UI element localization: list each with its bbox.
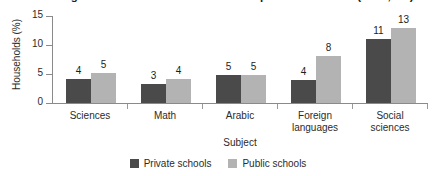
legend-swatch-icon <box>130 159 139 168</box>
x-axis-title: Subject <box>52 137 428 148</box>
x-category-label-line1: Foreign <box>278 110 352 122</box>
x-category-label-arabic: Arabic <box>203 110 277 122</box>
bar-public-foreign-languages[interactable]: 8 <box>316 56 341 103</box>
legend-label-private-schools: Private schools <box>144 158 212 169</box>
bar-private-social-sciences[interactable]: 11 <box>366 39 391 103</box>
y-tick-label-10: 10 <box>32 38 43 49</box>
bar-value-private-math: 3 <box>151 70 157 81</box>
x-axis-separator <box>352 104 353 109</box>
x-category-label-foreign-languages: Foreign languages <box>278 110 352 133</box>
bar-public-social-sciences[interactable]: 13 <box>391 28 416 103</box>
plot-area: 4 5 3 4 5 5 4 8 11 13 <box>52 16 428 103</box>
y-tick-label-5: 5 <box>37 67 43 78</box>
bar-value-public-math: 4 <box>176 65 182 76</box>
x-category-label-line1: Social <box>353 110 427 122</box>
bar-value-private-arabic: 5 <box>226 61 232 72</box>
x-axis-separator <box>127 104 128 109</box>
legend-item-private-schools[interactable]: Private schools <box>130 158 212 169</box>
chart-legend: Private schools Public schools <box>0 158 436 169</box>
bar-value-public-arabic: 5 <box>251 61 257 72</box>
x-category-label-sciences: Sciences <box>53 110 127 122</box>
bar-public-arabic[interactable]: 5 <box>241 75 266 103</box>
bar-public-sciences[interactable]: 5 <box>91 73 116 103</box>
y-tick-0: 0 <box>46 103 52 104</box>
bar-private-sciences[interactable]: 4 <box>66 79 91 103</box>
x-category-label-line1: Math <box>128 110 202 122</box>
x-category-label-line1: Arabic <box>203 110 277 122</box>
chart-title: Percentage of households that received h… <box>0 0 436 2</box>
bar-value-private-social-sciences: 11 <box>373 25 383 36</box>
bar-public-math[interactable]: 4 <box>166 79 191 103</box>
x-axis-line <box>52 103 428 104</box>
x-category-label-line2: sciences <box>353 122 427 134</box>
bar-private-arabic[interactable]: 5 <box>216 75 241 103</box>
x-category-label-line1: Sciences <box>53 110 127 122</box>
x-axis-separator <box>202 104 203 109</box>
x-category-label-social-sciences: Social sciences <box>353 110 427 133</box>
bar-private-math[interactable]: 3 <box>141 84 166 103</box>
legend-item-public-schools[interactable]: Public schools <box>228 158 306 169</box>
y-tick-label-0: 0 <box>37 96 43 107</box>
bar-value-public-sciences: 5 <box>101 59 107 70</box>
x-category-label-line2: languages <box>278 122 352 134</box>
y-tick-label-15: 15 <box>32 9 43 20</box>
x-axis-separator <box>427 104 428 109</box>
bar-value-private-sciences: 4 <box>76 65 82 76</box>
bar-value-private-foreign-languages: 4 <box>301 66 307 77</box>
bar-chart: Percentage of households that received h… <box>0 0 436 176</box>
legend-label-public-schools: Public schools <box>242 158 306 169</box>
bar-private-foreign-languages[interactable]: 4 <box>291 80 316 103</box>
x-category-label-math: Math <box>128 110 202 122</box>
y-axis-title: Households (%) <box>11 8 22 102</box>
x-axis-separator <box>277 104 278 109</box>
bar-value-public-social-sciences: 13 <box>398 14 409 25</box>
bar-value-public-foreign-languages: 8 <box>326 42 332 53</box>
legend-swatch-icon <box>228 159 237 168</box>
